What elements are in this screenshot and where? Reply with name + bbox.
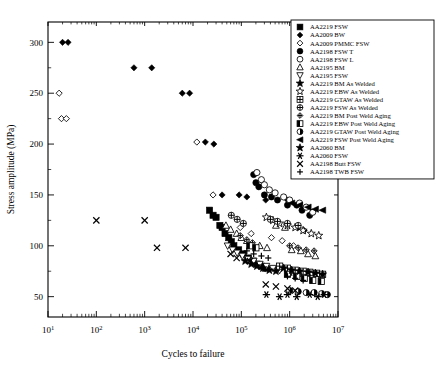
legend-item-label: AA2219 FSW — [310, 23, 349, 30]
legend-item-label: AA2009 PMMC FSW — [310, 40, 370, 47]
legend-item-label: AA2219 BM Post Weld Aging — [310, 112, 391, 119]
legend-item-label: AA2219 GTAW Post Weld Aging — [310, 128, 400, 135]
y-tick-label: 200 — [30, 139, 44, 149]
marker-glyph — [210, 192, 216, 198]
marker-glyph — [297, 56, 303, 62]
marker-glyph — [315, 231, 323, 239]
x-axis-title: Cycles to failure — [162, 349, 225, 359]
marker-glyph — [272, 190, 278, 196]
marker-glyph — [236, 192, 242, 198]
marker-glyph — [253, 245, 256, 251]
legend-item-label: AA2060 BM — [310, 144, 345, 151]
marker-glyph — [244, 194, 250, 200]
series-aa2009-bw — [59, 39, 307, 233]
marker-glyph — [179, 90, 185, 96]
marker-glyph — [268, 235, 274, 241]
fatigue-sn-scatter-figure: 101102103104105106107Cycles to failure50… — [0, 0, 436, 372]
marker-glyph — [297, 121, 300, 127]
legend-item[interactable]: AA2219 EBW Post Weld Aging — [297, 120, 396, 127]
x-tick-label: 104 — [187, 324, 200, 336]
marker-glyph — [149, 65, 155, 71]
marker-glyph — [264, 244, 271, 250]
chart-canvas: 101102103104105106107Cycles to failure50… — [0, 0, 436, 372]
marker-glyph — [186, 90, 192, 96]
legend-item-label: AA2219 BM As Welded — [310, 80, 375, 87]
legend-item[interactable]: AA2219 FSW As Welded — [297, 104, 379, 111]
marker-glyph — [211, 141, 217, 147]
legend: AA2219 FSWAA2009 BWAA2009 PMMC FSWAA2198… — [291, 20, 434, 179]
y-tick-label: 50 — [34, 292, 44, 302]
legend-item-label: AA2195 BM — [310, 64, 345, 71]
marker-glyph — [266, 187, 272, 193]
marker-glyph — [279, 238, 285, 244]
x-tick-label: 103 — [139, 324, 151, 336]
legend-item-label: AA2219 GTAW As Welded — [310, 96, 384, 103]
marker-glyph — [65, 39, 71, 45]
marker-glyph — [248, 230, 254, 236]
legend-item-label: AA2219 FSW Post Weld Aging — [310, 136, 395, 143]
marker-glyph — [274, 197, 280, 203]
y-tick-label: 250 — [30, 88, 44, 98]
legend-item-label: AA2195 FSW — [310, 72, 349, 79]
y-axis-title: Stress amplitude (MPa) — [6, 125, 17, 215]
y-tick-label: 300 — [30, 38, 44, 48]
data-points-layer — [56, 39, 330, 300]
legend-item[interactable]: AA2219 FSW Post Weld Aging — [297, 136, 395, 143]
legend-item[interactable]: AA2219 BM Post Weld Aging — [297, 112, 391, 119]
marker-glyph — [254, 169, 260, 175]
legend-item-label: AA2219 FSW As Welded — [310, 104, 379, 111]
marker-glyph — [318, 278, 321, 284]
legend-item[interactable]: AA2219 GTAW Post Weld Aging — [297, 128, 400, 135]
y-axis: 50100150200250300Stress amplitude (MPa) — [6, 38, 338, 302]
legend-item-label: AA2198 FSW T — [310, 48, 353, 55]
marker-glyph — [297, 48, 303, 54]
marker-glyph — [63, 116, 69, 122]
x-tick-label: 106 — [284, 324, 297, 336]
marker-glyph — [202, 139, 208, 145]
marker-glyph — [297, 24, 303, 30]
marker-glyph — [310, 277, 313, 283]
y-tick-label: 100 — [30, 241, 44, 251]
marker-glyph — [261, 182, 267, 188]
legend-item[interactable]: AA2219 GTAW As Welded — [297, 96, 384, 103]
y-tick-label: 150 — [30, 190, 44, 200]
x-tick-label: 102 — [90, 324, 102, 336]
marker-glyph — [319, 207, 326, 213]
legend-item-label: AA2060 FSW — [310, 152, 349, 159]
marker-glyph — [56, 90, 62, 96]
legend-item-label: AA2219 EBW As Welded — [310, 88, 380, 95]
x-tick-label: 101 — [42, 324, 54, 336]
marker-glyph — [194, 139, 200, 145]
x-tick-label: 105 — [235, 324, 247, 336]
marker-glyph — [131, 65, 137, 71]
legend-item-label: AA2219 EBW Post Weld Aging — [310, 120, 396, 127]
legend-item-label: AA2009 BW — [310, 31, 346, 38]
series-aa2198-butt-fsw — [93, 217, 298, 293]
series-aa2009-pmmc-fsw — [56, 90, 297, 249]
marker-glyph — [213, 214, 219, 220]
legend-item-label: AA2198 FSW L — [310, 56, 353, 63]
marker-glyph — [261, 192, 267, 198]
marker-glyph — [219, 192, 225, 198]
legend-item-label: AA2198 TWB FSW — [310, 168, 365, 175]
marker-glyph — [307, 229, 315, 237]
x-tick-label: 107 — [332, 324, 345, 336]
legend-item-label: AA2198 Butt FSW — [310, 160, 362, 167]
marker-glyph — [281, 194, 287, 200]
